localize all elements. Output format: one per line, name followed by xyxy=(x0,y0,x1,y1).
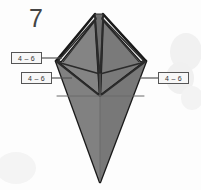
callout-label-upper-left[interactable]: 4 – 6 xyxy=(11,52,42,64)
callout-label-lower-left[interactable]: 4 – 6 xyxy=(21,72,52,84)
paper-body xyxy=(56,14,146,182)
diagram-canvas: 7 4 – 6 4 – 6 4 – 6 xyxy=(0,0,201,190)
callout-label-right[interactable]: 4 – 6 xyxy=(158,72,189,84)
step-number: 7 xyxy=(29,6,43,31)
